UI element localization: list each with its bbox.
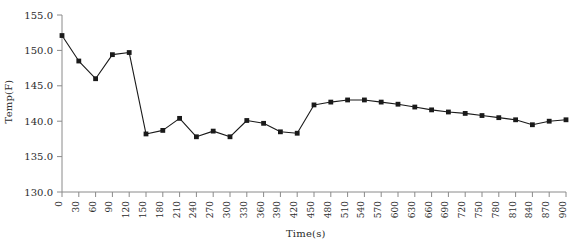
y-tick-label: 135.0	[24, 151, 53, 162]
x-tick-label: 750	[474, 201, 484, 218]
x-tick-label: 330	[239, 201, 249, 218]
chart-plot-area: 130.0135.0140.0145.0150.0155.0 030609012…	[0, 0, 575, 243]
data-point-marker	[446, 110, 451, 115]
data-point-marker	[194, 134, 199, 139]
x-tick-label: 810	[508, 201, 518, 218]
x-tick-label: 60	[88, 201, 98, 213]
data-point-marker	[60, 33, 65, 38]
data-point-marker	[211, 129, 216, 134]
data-point-marker	[345, 98, 350, 103]
data-point-marker	[513, 117, 518, 122]
x-tick-label: 300	[222, 201, 232, 218]
data-point-marker	[278, 129, 283, 134]
data-point-marker	[530, 122, 535, 127]
x-tick-label: 780	[491, 201, 501, 218]
data-point-marker	[496, 115, 501, 120]
data-point-marker	[177, 116, 182, 121]
data-point-marker	[463, 111, 468, 116]
data-point-marker	[244, 118, 249, 123]
data-point-marker	[480, 113, 485, 118]
x-tick-label: 900	[558, 201, 568, 218]
data-point-marker	[127, 50, 132, 55]
data-point-marker	[261, 121, 266, 126]
x-tick-label: 660	[424, 201, 434, 218]
temperature-line-chart: 130.0135.0140.0145.0150.0155.0 030609012…	[0, 0, 575, 243]
data-point-marker	[362, 98, 367, 103]
data-point-marker	[228, 134, 233, 139]
temperature-series	[60, 33, 569, 139]
x-tick-label: 390	[272, 201, 282, 218]
data-point-marker	[328, 100, 333, 105]
x-tick-label: 180	[155, 201, 165, 218]
x-tick-label: 360	[256, 201, 266, 218]
x-tick-label: 270	[205, 201, 215, 218]
x-tick-label: 870	[541, 201, 551, 218]
data-point-marker	[295, 131, 300, 136]
data-point-marker	[312, 103, 317, 108]
x-tick-label: 150	[138, 201, 148, 218]
x-tick-label: 600	[390, 201, 400, 218]
data-point-marker	[144, 132, 149, 137]
data-point-marker	[76, 59, 81, 64]
x-tick-label: 480	[323, 201, 333, 218]
data-point-marker	[547, 119, 552, 124]
x-axis: 0306090120150180210240270300330360390420…	[54, 192, 568, 218]
x-tick-label: 450	[306, 201, 316, 218]
y-tick-label: 145.0	[24, 80, 53, 91]
x-tick-label: 720	[457, 201, 467, 218]
data-point-marker	[412, 105, 417, 110]
x-axis-title: Time(s)	[286, 228, 326, 239]
data-point-marker	[93, 76, 98, 81]
y-tick-label: 130.0	[24, 187, 53, 198]
x-tick-label: 0	[54, 201, 64, 207]
x-tick-label: 420	[289, 201, 299, 218]
y-tick-label: 150.0	[24, 45, 53, 56]
x-tick-label: 240	[188, 201, 198, 218]
x-tick-label: 120	[121, 201, 131, 218]
data-point-marker	[160, 128, 165, 133]
y-axis: 130.0135.0140.0145.0150.0155.0	[24, 10, 62, 198]
data-point-marker	[110, 52, 115, 57]
data-point-marker	[379, 100, 384, 105]
x-tick-label: 630	[407, 201, 417, 218]
x-tick-label: 690	[440, 201, 450, 218]
y-tick-label: 140.0	[24, 116, 53, 127]
data-point-marker	[429, 107, 434, 112]
x-tick-label: 570	[373, 201, 383, 218]
x-tick-label: 840	[524, 201, 534, 218]
x-tick-label: 510	[340, 201, 350, 218]
data-point-marker	[396, 102, 401, 107]
x-tick-label: 90	[104, 201, 114, 213]
data-point-marker	[564, 117, 569, 122]
y-tick-label: 155.0	[24, 10, 53, 21]
y-axis-title: Temp(F)	[3, 72, 14, 132]
x-tick-label: 540	[356, 201, 366, 218]
x-tick-label: 30	[71, 201, 81, 213]
x-tick-label: 210	[172, 201, 182, 218]
